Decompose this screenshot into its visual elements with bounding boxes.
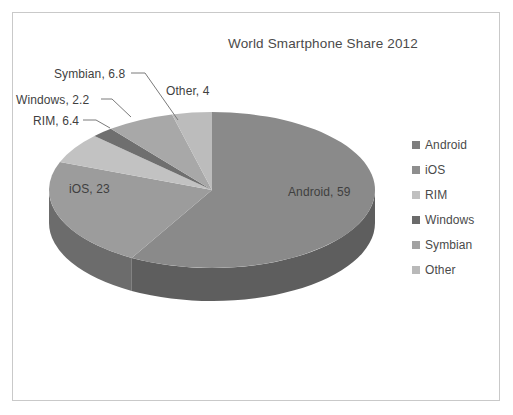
legend-item-label: Symbian [425, 238, 472, 252]
data-label-android: Android, 59 [288, 185, 350, 199]
legend-item-label: iOS [425, 163, 445, 177]
data-label-other: Other, 4 [166, 84, 210, 98]
legend-item-symbian[interactable]: Symbian [412, 232, 498, 257]
data-label-symbian: Symbian, 6.8 [54, 67, 125, 81]
legend-swatch-icon [412, 141, 420, 149]
legend-swatch-icon [412, 191, 420, 199]
chart-legend: AndroidiOSRIMWindowsSymbianOther [412, 132, 498, 282]
legend-item-windows[interactable]: Windows [412, 207, 498, 232]
legend-item-label: Windows [425, 213, 474, 227]
chart-title: World Smartphone Share 2012 [228, 36, 468, 51]
legend-item-rim[interactable]: RIM [412, 182, 498, 207]
legend-swatch-icon [412, 166, 420, 174]
legend-swatch-icon [412, 216, 420, 224]
data-label-windows: Windows, 2.2 [16, 93, 89, 107]
legend-item-label: Other [425, 263, 456, 277]
legend-item-android[interactable]: Android [412, 132, 498, 157]
data-label-rim: RIM, 6.4 [33, 114, 79, 128]
legend-item-other[interactable]: Other [412, 257, 498, 282]
legend-item-label: RIM [425, 188, 447, 202]
legend-item-ios[interactable]: iOS [412, 157, 498, 182]
chart-page: World Smartphone Share 2012 Symbian, 6.8… [0, 0, 513, 415]
legend-swatch-icon [412, 266, 420, 274]
data-label-ios: iOS, 23 [69, 182, 110, 196]
legend-swatch-icon [412, 241, 420, 249]
legend-item-label: Android [425, 138, 467, 152]
